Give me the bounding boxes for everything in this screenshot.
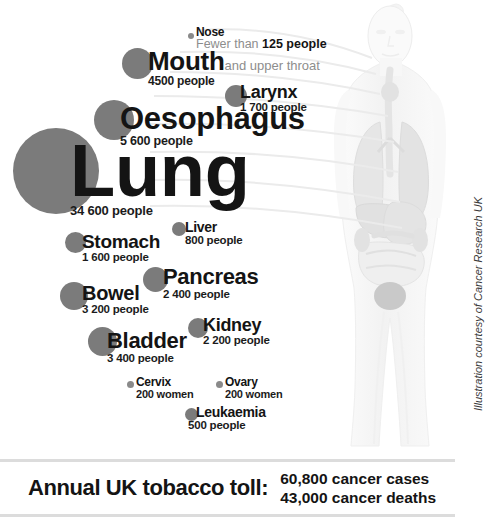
- organ-count-ovary: 200 women: [225, 389, 283, 400]
- organ-name-stomach: Stomach: [82, 232, 160, 251]
- label-kidney: Kidney 2 200 people: [203, 316, 270, 347]
- label-bladder: Bladder 3 400 people: [107, 330, 187, 365]
- organ-count-bladder: 3 400 people: [107, 353, 187, 365]
- organ-count-cervix: 200 women: [136, 389, 194, 400]
- organ-name-bowel: Bowel: [82, 283, 149, 303]
- organ-count-pancreas: 2 400 people: [163, 289, 258, 301]
- label-lung: Lung 34 600 people: [70, 134, 250, 217]
- bubble-ovary: [216, 381, 223, 388]
- organ-count-liver: 800 people: [185, 235, 242, 247]
- organ-name-leukaemia: Leukaemia: [196, 405, 266, 419]
- organ-count-kidney: 2 200 people: [203, 335, 270, 347]
- illustration-credit: Illustration courtesy of Cancer Research…: [472, 201, 484, 411]
- footer-bar: Annual UK tobacco toll: 60,800 cancer ca…: [0, 462, 455, 514]
- organ-name-bladder: Bladder: [107, 330, 187, 352]
- organ-name-cervix: Cervix: [136, 376, 194, 388]
- organ-name-liver: Liver: [185, 220, 242, 234]
- organ-count-stomach: 1 600 people: [82, 252, 160, 264]
- organ-count-bowel: 3 200 people: [82, 304, 149, 316]
- organ-name-mouth: Mouth: [148, 46, 224, 76]
- label-leukaemia: Leukaemia 500 people: [196, 405, 266, 432]
- label-liver: Liver 800 people: [185, 220, 242, 247]
- organ-suffix-mouth: and upper throat: [224, 58, 319, 73]
- organ-name-lung: Lung: [70, 134, 250, 208]
- organ-name-kidney: Kidney: [203, 316, 270, 334]
- label-stomach: Stomach 1 600 people: [82, 232, 160, 264]
- footer-title: Annual UK tobacco toll:: [28, 475, 268, 501]
- bubble-liver: [172, 222, 186, 236]
- organ-name-row-mouth: Mouthand upper throat: [148, 48, 320, 74]
- organ-name-pancreas: Pancreas: [163, 266, 258, 288]
- bubble-nose: [188, 33, 194, 39]
- label-cervix: Cervix 200 women: [136, 376, 194, 400]
- organ-name-ovary: Ovary: [225, 376, 283, 388]
- organ-count-leukaemia: 500 people: [188, 420, 266, 432]
- footer-stat-cases: 60,800 cancer cases: [280, 469, 436, 488]
- label-ovary: Ovary 200 women: [225, 376, 283, 400]
- tobacco-toll-infographic: Nose Fewer than 125 people Mouthand uppe…: [0, 0, 499, 520]
- footer-rule-bottom: [0, 514, 455, 517]
- organ-name-larynx: Larynx: [240, 83, 307, 101]
- footer-stats: 60,800 cancer cases 43,000 cancer deaths: [280, 469, 436, 508]
- bubble-cervix: [127, 381, 134, 388]
- footer-stat-deaths: 43,000 cancer deaths: [280, 488, 436, 507]
- label-pancreas: Pancreas 2 400 people: [163, 266, 258, 301]
- label-bowel: Bowel 3 200 people: [82, 283, 149, 316]
